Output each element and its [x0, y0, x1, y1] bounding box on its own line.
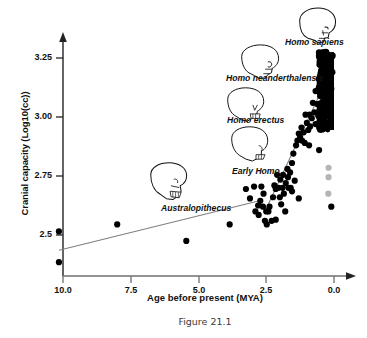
y-tick-marks: [56, 58, 63, 235]
x-axis-arrowhead: [346, 272, 356, 280]
data-point: [312, 121, 318, 127]
data-point: [292, 178, 298, 184]
axes-group: [59, 32, 356, 280]
y-tick-label-300: 3.00: [8, 111, 52, 121]
data-point: [287, 169, 293, 175]
gray-points-layer: [325, 165, 331, 197]
data-point: [328, 204, 334, 210]
x-axis-title: Age before present (MYA): [60, 292, 350, 303]
skull-icon-early-homo: [232, 127, 268, 161]
data-point: [266, 204, 272, 210]
data-point: [258, 184, 264, 190]
data-point: [243, 186, 249, 192]
species-label-early-homo: Early Homo: [232, 166, 280, 176]
data-point: [282, 208, 288, 214]
data-point: [315, 113, 321, 119]
species-label-australopithecus: Australopithecus: [161, 203, 231, 213]
data-point: [114, 221, 120, 227]
data-point: [325, 100, 331, 106]
data-point: [56, 259, 62, 265]
data-point: [281, 191, 287, 197]
dense-cluster-dot: [316, 49, 322, 55]
dense-cluster-dot: [322, 109, 328, 115]
y-tick-label-275: 2.75: [8, 170, 52, 180]
y-tick-label-250: 2.5: [8, 229, 52, 239]
data-point: [290, 150, 296, 156]
y-axis-title: Cranial capacity (Log10(cc)): [19, 54, 30, 254]
skull-icon-australopithecus: [151, 163, 187, 200]
data-point: [307, 123, 313, 129]
species-label-homo-sapiens: Homo sapiens: [285, 37, 344, 47]
data-point: [325, 191, 331, 197]
data-point: [329, 69, 335, 75]
y-axis-arrowhead: [59, 32, 67, 42]
data-point: [256, 212, 262, 218]
x-tick-marks: [63, 276, 334, 283]
data-point: [316, 147, 322, 153]
data-point: [302, 112, 308, 118]
y-tick-label-325: 3.25: [8, 52, 52, 62]
data-point: [278, 201, 284, 207]
data-point: [328, 86, 334, 92]
data-point: [247, 195, 253, 201]
data-point: [325, 64, 331, 70]
data-point: [289, 188, 295, 194]
data-point: [330, 53, 336, 59]
data-point: [312, 88, 318, 94]
data-point: [257, 198, 263, 204]
data-point: [325, 165, 331, 171]
data-point: [270, 194, 276, 200]
data-point: [260, 191, 266, 197]
data-point: [251, 184, 257, 190]
data-point: [227, 221, 233, 227]
data-point: [273, 217, 279, 223]
data-point: [306, 142, 312, 148]
species-label-homo-erectus: Homo erectus: [227, 115, 284, 125]
trendline-layer: [59, 69, 332, 251]
data-point: [183, 238, 189, 244]
data-point: [322, 90, 328, 96]
data-point: [289, 160, 295, 166]
data-point: [309, 115, 315, 121]
data-point: [325, 174, 331, 180]
species-label-homo-neanderthalensis: Homo neanderthalensis: [226, 73, 323, 83]
data-point: [319, 126, 325, 132]
data-point: [56, 228, 62, 234]
dense-cluster-dot: [322, 49, 329, 56]
figure-container: Cranial capacity (Log10(cc)) 3.25 3.00 2…: [0, 0, 367, 338]
data-point: [296, 195, 302, 201]
data-point: [323, 120, 329, 126]
figure-caption: Figure 21.1: [60, 316, 350, 327]
data-points-layer: [56, 53, 336, 266]
